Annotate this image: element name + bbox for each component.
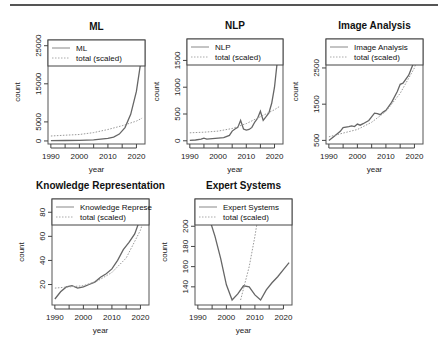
- svg-text:2000: 2000: [348, 152, 366, 161]
- svg-text:total (scaled): total (scaled): [223, 213, 269, 222]
- svg-text:2020: 2020: [266, 152, 284, 161]
- svg-text:total (scaled): total (scaled): [215, 53, 261, 62]
- svg-text:2020: 2020: [275, 313, 293, 322]
- svg-text:2000: 2000: [74, 313, 92, 322]
- svg-text:140: 140: [181, 280, 190, 294]
- y-axis: 140160180200count: [160, 219, 195, 293]
- svg-text:2010: 2010: [377, 152, 395, 161]
- legend: Expert Systemstotal (scaled): [195, 199, 292, 225]
- x-axis-label: year: [227, 165, 243, 174]
- legend: Knowledge Represetotal (scaled): [52, 199, 153, 225]
- y-axis-label: count: [17, 241, 26, 261]
- y-axis-label: count: [13, 81, 22, 101]
- chart-panel: Expert SystemsExpert Systemstotal (scale…: [160, 180, 293, 335]
- svg-text:2500: 2500: [312, 59, 321, 77]
- svg-text:2020: 2020: [406, 152, 424, 161]
- svg-text:1990: 1990: [189, 313, 207, 322]
- svg-text:2010: 2010: [246, 313, 264, 322]
- svg-text:500: 500: [173, 107, 182, 121]
- x-axis: 1990200020102020year: [320, 144, 424, 174]
- x-axis: 1990200020102020year: [46, 305, 150, 335]
- svg-text:2000: 2000: [70, 152, 88, 161]
- y-axis: 20406080count: [17, 207, 52, 289]
- svg-text:Image Analysis: Image Analysis: [354, 43, 408, 52]
- chart-title: Image Analysis: [338, 20, 411, 31]
- svg-text:15000: 15000: [34, 72, 43, 95]
- figure-canvas: MLMLtotal (scaled)1990200020102020year05…: [0, 0, 446, 358]
- svg-text:total (scaled): total (scaled): [354, 53, 400, 62]
- svg-text:1990: 1990: [181, 152, 199, 161]
- y-axis: 50015002500count: [291, 59, 326, 148]
- chart-panel: Knowledge RepresentationKnowledge Repres…: [17, 180, 165, 335]
- x-axis-label: year: [89, 165, 105, 174]
- svg-text:60: 60: [38, 231, 47, 240]
- legend: Image Analysistotal (scaled): [326, 39, 423, 65]
- y-axis-label: count: [152, 81, 161, 101]
- svg-text:2010: 2010: [103, 313, 121, 322]
- svg-text:Expert Systems: Expert Systems: [223, 203, 279, 212]
- svg-text:2020: 2020: [128, 152, 146, 161]
- svg-text:1000: 1000: [173, 78, 182, 96]
- svg-text:2020: 2020: [132, 313, 150, 322]
- svg-text:1990: 1990: [46, 313, 64, 322]
- svg-text:ML: ML: [76, 44, 88, 53]
- y-axis: 050010001500count: [152, 51, 187, 143]
- y-axis: 050001500025000count: [13, 34, 48, 143]
- x-axis-label: year: [236, 326, 252, 335]
- chart-panel: NLPNLPtotal (scaled)1990200020102020year…: [152, 20, 284, 174]
- svg-text:1500: 1500: [173, 51, 182, 69]
- svg-text:2000: 2000: [217, 313, 235, 322]
- svg-text:2000: 2000: [209, 152, 227, 161]
- svg-text:500: 500: [312, 133, 321, 147]
- chart-panel: Image AnalysisImage Analysistotal (scale…: [291, 20, 424, 174]
- svg-text:0: 0: [34, 138, 43, 143]
- x-axis: 1990200020102020year: [189, 305, 293, 335]
- svg-text:80: 80: [38, 207, 47, 216]
- svg-text:160: 160: [181, 259, 190, 273]
- x-axis: 1990200020102020year: [42, 144, 146, 174]
- chart-title: Expert Systems: [206, 180, 281, 191]
- x-axis-label: year: [367, 165, 383, 174]
- svg-text:1500: 1500: [312, 95, 321, 113]
- legend: MLtotal (scaled): [48, 40, 145, 66]
- svg-text:25000: 25000: [34, 34, 43, 57]
- svg-text:Knowledge Represe: Knowledge Represe: [80, 203, 153, 212]
- chart-panel: MLMLtotal (scaled)1990200020102020year05…: [13, 21, 146, 174]
- svg-text:2010: 2010: [237, 152, 255, 161]
- chart-title: ML: [89, 21, 103, 32]
- svg-text:200: 200: [181, 219, 190, 233]
- x-axis: 1990200020102020year: [181, 144, 284, 174]
- svg-text:NLP: NLP: [215, 43, 231, 52]
- y-axis-label: count: [291, 81, 300, 101]
- chart-title: Knowledge Representation: [36, 180, 165, 191]
- svg-text:2010: 2010: [99, 152, 117, 161]
- x-axis-label: year: [93, 326, 109, 335]
- svg-text:5000: 5000: [34, 112, 43, 130]
- legend: NLPtotal (scaled): [187, 39, 283, 65]
- chart-title: NLP: [225, 20, 245, 31]
- svg-text:180: 180: [181, 239, 190, 253]
- y-axis-label: count: [160, 241, 169, 261]
- svg-text:40: 40: [38, 255, 47, 264]
- svg-text:0: 0: [173, 138, 182, 143]
- svg-text:20: 20: [38, 280, 47, 289]
- svg-text:total (scaled): total (scaled): [80, 213, 126, 222]
- svg-text:1990: 1990: [320, 152, 338, 161]
- svg-text:1990: 1990: [42, 152, 60, 161]
- svg-text:total (scaled): total (scaled): [76, 54, 122, 63]
